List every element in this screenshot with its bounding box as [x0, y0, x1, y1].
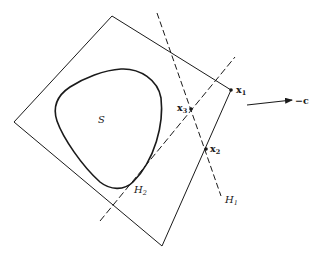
feasible-polygon: [14, 16, 231, 246]
hyperplane-h1-label: H1: [224, 194, 238, 207]
point-x2: [204, 147, 208, 151]
hyperplane-h2: [100, 57, 235, 221]
direction-arrow-label: −c: [295, 95, 309, 106]
point-x2-label: x2: [210, 143, 220, 156]
point-x3: [189, 107, 193, 111]
direction-arrow: [247, 100, 292, 105]
diagram-canvas: S H1 H2 x1 x2 x3 −c: [0, 0, 320, 260]
point-x1: [229, 88, 233, 92]
hyperplane-h2-label: H2: [133, 184, 147, 197]
hyperplane-h1: [157, 13, 221, 196]
set-s-label: S: [98, 114, 105, 125]
point-x3-label: x3: [177, 102, 188, 115]
point-x1-label: x1: [236, 84, 246, 97]
